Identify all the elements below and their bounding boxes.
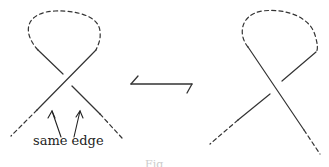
bidirectional-harpoon-arrow [131,76,192,93]
right-under-strand-lower [238,94,270,120]
figure-caption-partial: Fig [145,158,163,167]
harpoon-right-barb [187,84,192,93]
same-edge-label: same edge [33,133,104,148]
left-under-strand-upper [38,50,63,74]
right-tail-lower-right-dashed [304,130,320,154]
right-under-strand-upper [282,52,316,81]
right-tail-lower-left-dashed [210,120,238,144]
left-kink-diagram [11,11,122,138]
right-kink-diagram [210,10,320,154]
right-over-strand [248,47,304,130]
right-loop-dashed [242,10,317,52]
left-loop-dashed [28,11,100,50]
harpoon-left-barb [131,76,138,84]
left-under-strand-lower [72,86,100,114]
